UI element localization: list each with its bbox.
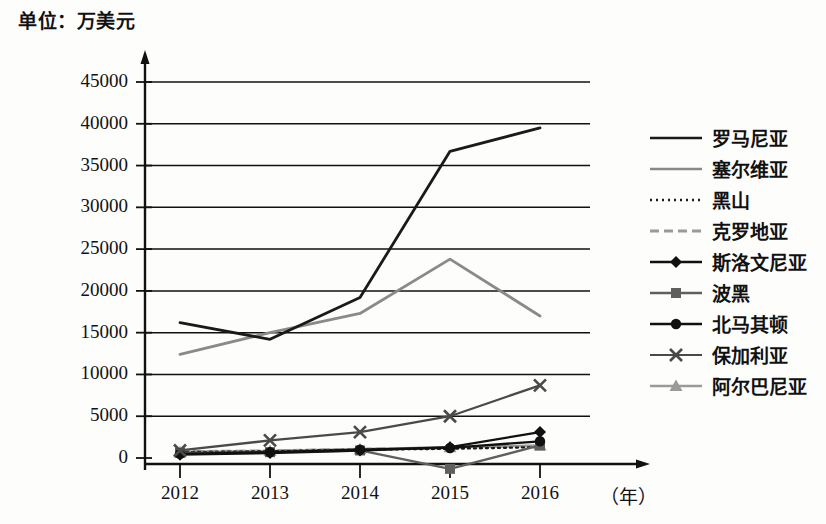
y-tick-label: 25000 bbox=[18, 237, 128, 259]
legend-label: 北马其顿 bbox=[712, 310, 788, 337]
gridlines bbox=[145, 82, 590, 458]
plain-dark-line-key bbox=[648, 128, 704, 148]
y-tick-label: 5000 bbox=[18, 404, 128, 426]
legend-item-3[interactable]: 克罗地亚 bbox=[648, 215, 807, 246]
y-tick-label: 10000 bbox=[18, 362, 128, 384]
plain-gray-line-key bbox=[648, 159, 704, 179]
legend-label: 黑山 bbox=[712, 186, 750, 213]
square-marker-line-key bbox=[648, 283, 704, 303]
legend-label: 罗马尼亚 bbox=[712, 124, 788, 151]
legend-item-1[interactable]: 塞尔维亚 bbox=[648, 153, 807, 184]
y-tick-label: 0 bbox=[18, 446, 128, 468]
circle-marker-line-key bbox=[648, 314, 704, 334]
legend-label: 塞尔维亚 bbox=[712, 155, 788, 182]
legend-item-6[interactable]: 北马其顿 bbox=[648, 308, 807, 339]
legend-label: 保加利亚 bbox=[712, 341, 788, 368]
x-tick-label: 2014 bbox=[315, 482, 405, 504]
series-0 bbox=[180, 128, 540, 339]
legend-item-2[interactable]: 黑山 bbox=[648, 184, 807, 215]
triangle-marker-line-key bbox=[648, 376, 704, 396]
line-chart: 单位：万美元 050001000015000200002500030000350… bbox=[0, 0, 826, 524]
legend-item-0[interactable]: 罗马尼亚 bbox=[648, 122, 807, 153]
x-tick-label: 2015 bbox=[405, 482, 495, 504]
axes bbox=[141, 50, 651, 470]
legend-item-5[interactable]: 波黑 bbox=[648, 277, 807, 308]
y-tick-label: 20000 bbox=[18, 279, 128, 301]
series-1 bbox=[180, 259, 540, 354]
y-tick-label: 15000 bbox=[18, 321, 128, 343]
chart-legend: 罗马尼亚塞尔维亚黑山克罗地亚斯洛文尼亚波黑北马其顿保加利亚阿尔巴尼亚 bbox=[648, 122, 807, 401]
y-tick-label: 40000 bbox=[18, 112, 128, 134]
x-tick-label: 2013 bbox=[225, 482, 315, 504]
x-tick-marks bbox=[180, 464, 540, 478]
y-tick-label: 45000 bbox=[18, 70, 128, 92]
legend-label: 克罗地亚 bbox=[712, 217, 788, 244]
dotted-dark-line-key bbox=[648, 190, 704, 210]
legend-item-4[interactable]: 斯洛文尼亚 bbox=[648, 246, 807, 277]
diamond-marker-line-key bbox=[648, 252, 704, 272]
legend-item-7[interactable]: 保加利亚 bbox=[648, 339, 807, 370]
legend-label: 阿尔巴尼亚 bbox=[712, 372, 807, 399]
legend-label: 波黑 bbox=[712, 279, 750, 306]
x-tick-label: 2016 bbox=[495, 482, 585, 504]
y-tick-label: 30000 bbox=[18, 195, 128, 217]
x-axis-unit-label: （年） bbox=[600, 482, 657, 509]
legend-label: 斯洛文尼亚 bbox=[712, 248, 807, 275]
cross-marker-line-key bbox=[648, 345, 704, 365]
data-series-layer bbox=[174, 128, 547, 474]
x-tick-label: 2012 bbox=[135, 482, 225, 504]
dashed-gray-line-key bbox=[648, 221, 704, 241]
y-tick-label: 35000 bbox=[18, 154, 128, 176]
legend-item-8[interactable]: 阿尔巴尼亚 bbox=[648, 370, 807, 401]
